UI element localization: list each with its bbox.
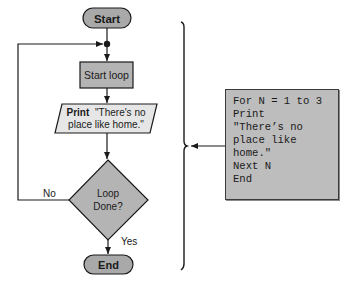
print-io-shape: Print "There's no place like home." [55, 104, 157, 133]
print-keyword: Print [66, 107, 89, 118]
svg-text:Print "There's no: Print "There's no [66, 107, 145, 118]
print-text-line2: place like home." [68, 119, 144, 130]
start-terminal: Start [83, 8, 131, 28]
code-line-4: place like [233, 134, 338, 147]
loop-done-decision: Loop Done? [69, 160, 148, 240]
pseudocode-box: For N = 1 to 3 Print "There’s no place l… [225, 89, 339, 200]
decision-line1: Loop [97, 188, 120, 199]
no-branch-label: No [43, 188, 56, 199]
yes-branch-label: Yes [121, 236, 137, 247]
junction-dot [104, 41, 110, 47]
start-loop-label: Start loop [84, 69, 129, 81]
code-line-7: End [233, 173, 338, 186]
code-line-3: "There’s no [233, 121, 338, 134]
code-line-1: For N = 1 to 3 [233, 95, 338, 108]
end-label: End [98, 259, 119, 271]
print-text-line1: "There's no [95, 107, 146, 118]
end-terminal: End [84, 255, 133, 274]
start-loop-box: Start loop [80, 62, 133, 88]
code-line-2: Print [233, 108, 338, 121]
code-line-5: home." [233, 147, 338, 160]
curly-brace [181, 22, 187, 270]
code-line-6: Next N [233, 160, 338, 173]
start-label: Start [94, 13, 120, 25]
decision-line2: Done? [93, 201, 123, 212]
